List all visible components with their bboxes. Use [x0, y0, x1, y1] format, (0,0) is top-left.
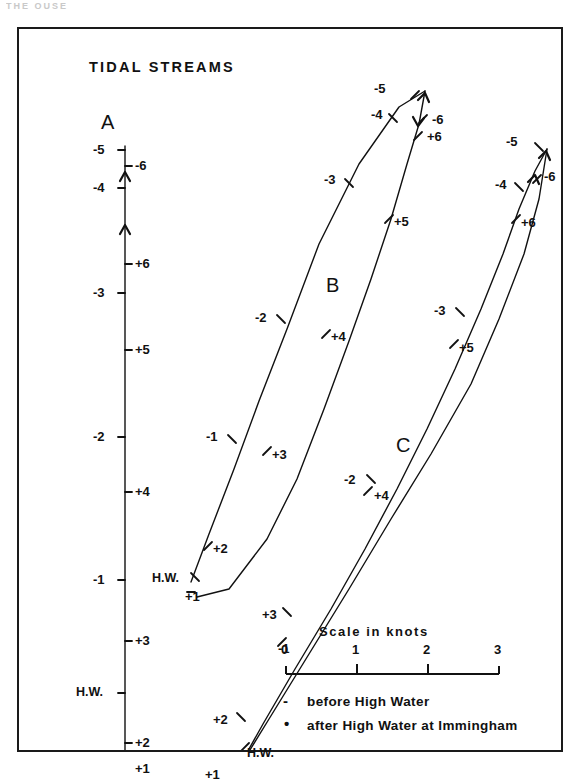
station-c-hour-label-+5: +5: [459, 340, 474, 355]
station-c-tick-+3: [283, 608, 291, 616]
station-b-tick--1: [228, 435, 236, 443]
station-a-hour-label--5: -5: [93, 142, 105, 157]
station-b-hour-label-+5: +5: [394, 214, 409, 229]
station-a-hour-label-+5: +5: [135, 342, 150, 357]
station-c-hour-label--4: -4: [495, 177, 507, 192]
station-c-hour-label--2: -2: [344, 472, 356, 487]
station-a-hour-label-+6: +6: [135, 256, 150, 271]
station-c-tick--3: [456, 308, 464, 316]
scale-caption: Scale in knots: [319, 624, 429, 639]
legend-label-before: before High Water: [307, 694, 430, 709]
station-label-a: A: [101, 111, 114, 134]
scale-tick-1: 1: [352, 642, 359, 657]
station-a-hour-label--4: -4: [93, 180, 105, 195]
station-c-hour-label-H.W.: H.W.: [247, 746, 274, 760]
station-label-c: C: [396, 434, 410, 457]
station-c-hour-label--5: -5: [506, 134, 518, 149]
station-b-hour-label--2: -2: [255, 310, 267, 325]
station-b-tick--3: [345, 179, 353, 187]
station-b-curve-outbound: [191, 91, 425, 582]
scale-tick-3: 3: [494, 642, 501, 657]
station-c-tick--5: [535, 143, 543, 151]
legend-item: • after High Water at Immingham: [281, 713, 561, 737]
scale-tick-2: 2: [423, 642, 430, 657]
station-b-hour-label-H.W.: H.W.: [152, 571, 179, 585]
station-b-hour-label-+2: +2: [213, 541, 228, 556]
station-c-tick-+5: [450, 340, 458, 348]
station-c-hour-label--3: -3: [434, 303, 446, 318]
minus-sign-icon: -: [283, 692, 288, 709]
cropped-header-fragment: THE OUSE: [6, 1, 68, 10]
station-b-arrowhead-1: [413, 117, 424, 126]
station-b-hour-label-+6: +6: [427, 129, 442, 144]
station-a-hour-label-+4: +4: [135, 484, 150, 499]
figure-frame: TIDAL STREAMS -5-6-4+6-3+5-2+4-1+3H.W.+2…: [17, 27, 563, 752]
scale-bar-group: Scale in knots 0123: [281, 624, 511, 684]
station-b-curve-inbound: [197, 91, 425, 597]
station-b-tick-+3: [263, 447, 271, 455]
station-c-arrowhead-0: [539, 151, 550, 160]
station-b-hour-label--5: -5: [374, 81, 386, 96]
station-b-hour-label--6: -6: [432, 112, 444, 127]
station-c-hour-label--6: -6: [544, 169, 556, 184]
station-c-tick-+4: [364, 487, 372, 495]
station-b-hour-label--4: -4: [371, 107, 383, 122]
station-a-hour-label--1: -1: [93, 572, 105, 587]
station-c-hour-label-+4: +4: [374, 488, 389, 503]
legend-label-after: after High Water at Immingham: [307, 718, 518, 733]
station-b-tick--2: [277, 315, 285, 323]
scale-tick-0: 0: [281, 642, 288, 657]
station-b-tick-+5: [385, 215, 393, 223]
station-a-hour-label-+2: +2: [135, 735, 150, 750]
station-b-hour-label-+3: +3: [272, 447, 287, 462]
legend-item: - before High Water: [281, 689, 561, 713]
station-c-hour-label-+2: +2: [213, 712, 228, 727]
dot-sign-icon: •: [284, 715, 289, 732]
station-a-hour-label--6: -6: [135, 158, 147, 173]
station-c-tick--2: [367, 475, 375, 483]
station-a-hour-label-H.W.: H.W.: [76, 685, 103, 699]
station-b-hour-label-+4: +4: [331, 329, 346, 344]
station-c-tick--4: [515, 183, 523, 191]
station-a-hour-label--3: -3: [93, 285, 105, 300]
station-a-hour-label-+1: +1: [135, 761, 150, 776]
station-b-hour-label--1: -1: [206, 429, 218, 444]
station-label-b: B: [326, 274, 339, 297]
station-c-tick-+2: [237, 713, 245, 721]
legend: - before High Water • after High Water a…: [281, 689, 561, 737]
station-c-hour-label-+1: +1: [205, 767, 220, 782]
scale-ruler: [281, 660, 511, 686]
station-c-hour-label-+3: +3: [262, 607, 277, 622]
station-a-hour-label--2: -2: [93, 429, 105, 444]
station-b-hour-label-+1: +1: [185, 589, 200, 604]
station-a-hour-label-+3: +3: [135, 633, 150, 648]
station-b-tick-+4: [322, 330, 330, 338]
page-title: TIDAL STREAMS: [89, 59, 235, 75]
station-c-hour-label-+6: +6: [521, 215, 536, 230]
station-b-hour-label--3: -3: [324, 172, 336, 187]
